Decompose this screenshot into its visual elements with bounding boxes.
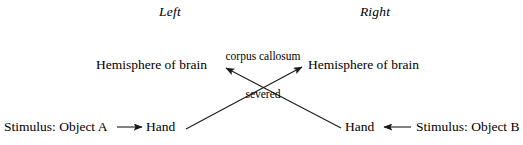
split-brain-diagram: Left Right corpus callosum severed Hemis… xyxy=(0,0,523,145)
left-hemisphere-label: Hemisphere of brain xyxy=(96,57,207,72)
left-side-label: Left xyxy=(159,4,181,19)
corpus-callosum-line-2: severed xyxy=(225,88,300,101)
corpus-callosum-line-1: corpus callosum xyxy=(225,50,300,63)
right-hemisphere-label: Hemisphere of brain xyxy=(308,57,419,72)
right-side-label: Right xyxy=(360,4,390,19)
right-hand-label: Hand xyxy=(345,119,374,134)
left-hand-label: Hand xyxy=(146,119,175,134)
corpus-callosum-note: corpus callosum severed xyxy=(225,24,300,127)
right-stimulus-label: Stimulus: Object B xyxy=(416,119,520,134)
left-stimulus-label: Stimulus: Object A xyxy=(4,119,108,134)
